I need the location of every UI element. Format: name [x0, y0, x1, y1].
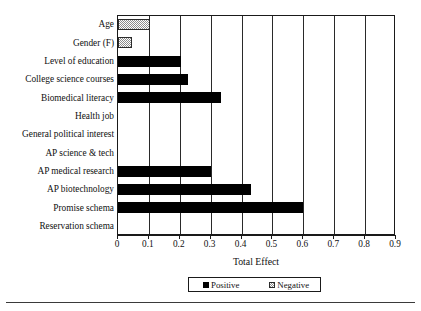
legend-swatch-negative-icon: [269, 282, 275, 288]
bar-row: [118, 181, 394, 199]
x-tick-label: 0.5: [256, 239, 286, 250]
bar-row: [118, 126, 394, 144]
category-label: Reservation schema: [2, 221, 117, 231]
category-label: AP science & tech: [2, 148, 117, 158]
bar-positive: [118, 56, 181, 67]
x-tick-label: 0.6: [287, 239, 317, 250]
bar-row: [118, 144, 394, 162]
category-label: AP medical research: [2, 166, 117, 176]
bar-row: [118, 199, 394, 217]
category-label: Health job: [2, 111, 117, 121]
footer-divider: [6, 302, 415, 303]
x-tick-label: 0.7: [318, 239, 348, 250]
x-axis-title: Total Effect: [117, 256, 395, 268]
x-tick-label: 0: [102, 239, 132, 250]
legend-item-negative: Negative: [269, 280, 309, 290]
legend-label-positive: Positive: [211, 280, 239, 290]
x-tick-label: 0.8: [349, 239, 379, 250]
bar-positive: [118, 92, 221, 103]
category-label: Promise schema: [2, 203, 117, 213]
x-tick-label: 0.9: [380, 239, 410, 250]
figure-container: AgeGender (F)Level of educationCollege s…: [0, 0, 421, 311]
x-tick-label: 0.1: [133, 239, 163, 250]
bar-positive: [118, 74, 188, 85]
category-label: General political interest: [2, 129, 117, 139]
legend-label-negative: Negative: [277, 280, 309, 290]
x-tick-label: 0.2: [164, 239, 194, 250]
bar-row: [118, 89, 394, 107]
plot-area: [117, 15, 395, 235]
chart-legend: Positive Negative: [188, 277, 321, 292]
legend-swatch-positive-icon: [203, 282, 209, 288]
legend-item-positive: Positive: [203, 280, 239, 290]
bar-positive: [118, 184, 251, 195]
bar-row: [118, 53, 394, 71]
category-label: Biomedical literacy: [2, 93, 117, 103]
x-tick-label: 0.4: [226, 239, 256, 250]
x-tick-label: 0.3: [195, 239, 225, 250]
bar-row: [118, 108, 394, 126]
category-label: Level of education: [2, 56, 117, 66]
category-label: College science courses: [2, 74, 117, 84]
bar-positive: [118, 202, 303, 213]
bar-positive: [118, 166, 211, 177]
bar-negative: [118, 19, 150, 30]
bar-row: [118, 16, 394, 34]
category-label: Gender (F): [2, 38, 117, 48]
bar-negative: [118, 37, 132, 48]
x-axis-line: [117, 235, 395, 236]
bar-row: [118, 71, 394, 89]
bar-row: [118, 34, 394, 52]
bar-row: [118, 218, 394, 236]
category-label: Age: [2, 19, 117, 29]
category-axis-labels: AgeGender (F)Level of educationCollege s…: [0, 15, 117, 235]
bar-row: [118, 163, 394, 181]
category-label: AP biotechnology: [2, 184, 117, 194]
